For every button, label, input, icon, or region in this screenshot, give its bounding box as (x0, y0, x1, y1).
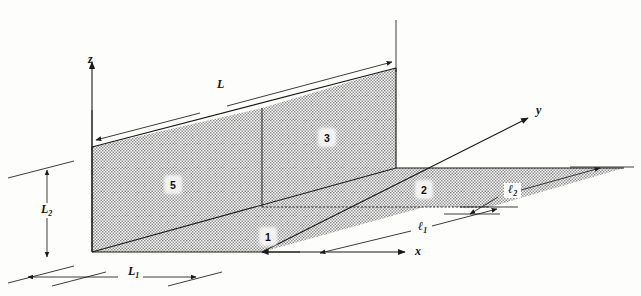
dimension-label-l1-sub: 1 (423, 226, 427, 235)
axis-label-y: y (536, 104, 541, 116)
dimension-label-L1: L1 (124, 265, 143, 280)
region-label-1-wrap: 1 (261, 227, 275, 243)
dimension-label-l1: ℓ1 (414, 220, 431, 235)
dimension-label-l2-sub: 2 (513, 189, 517, 198)
region-label-3: 3 (320, 130, 334, 145)
geometry-diagram-svg (0, 0, 641, 296)
axis-label-x: x (415, 245, 421, 257)
region-label-5-wrap: 5 (166, 175, 180, 191)
region-label-2-wrap: 2 (417, 180, 431, 196)
dimension-label-L2: L2 (38, 203, 55, 218)
figure-canvas: z y x L L2 L1 ℓ1 ℓ2 5 3 2 1 (0, 0, 641, 296)
dimension-label-l2: ℓ2 (504, 183, 521, 198)
region-label-2: 2 (417, 182, 431, 197)
dimension-line-L2 (8, 161, 74, 283)
dimension-label-L: L (213, 78, 228, 90)
region-label-3-wrap: 3 (320, 128, 334, 144)
dimension-label-L-base: L (217, 77, 224, 91)
dimension-label-L1-sub: 1 (135, 271, 139, 280)
region-label-1: 1 (261, 229, 275, 244)
region-label-5: 5 (166, 177, 180, 192)
axis-label-z: z (88, 53, 93, 65)
dimension-label-L2-sub: 2 (48, 209, 52, 218)
